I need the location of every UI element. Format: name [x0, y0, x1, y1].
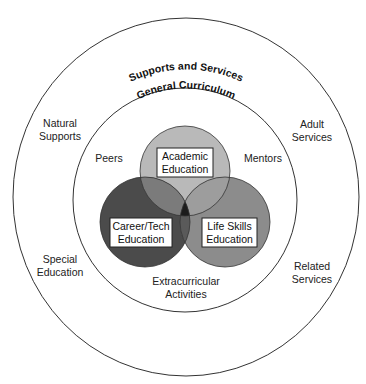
- mentors-label: Mentors: [244, 152, 282, 164]
- natural-supports-line1: Natural: [43, 117, 77, 129]
- related-services-line2: Services: [292, 273, 332, 285]
- extracurricular-label-line2: Activities: [165, 288, 206, 300]
- life-skills-label-line2: Education: [206, 233, 253, 245]
- natural-supports-line2: Supports: [39, 130, 81, 142]
- academic-label-line1: Academic: [162, 150, 208, 162]
- peers-label: Peers: [95, 152, 122, 164]
- extracurricular-label-line1: Extracurricular: [152, 275, 220, 287]
- life-skills-label-line1: Life Skills: [207, 220, 251, 232]
- diagram-canvas: Supports and Services General Curriculum…: [0, 0, 366, 384]
- career-tech-label-line2: Education: [118, 233, 165, 245]
- inner-ring-title: General Curriculum: [134, 78, 237, 101]
- academic-label-line2: Education: [162, 163, 209, 175]
- career-tech-label-line1: Career/Tech: [112, 220, 169, 232]
- nested-circles-diagram: Supports and Services General Curriculum…: [0, 0, 366, 384]
- related-services-line1: Related: [294, 260, 330, 272]
- special-education-line2: Education: [37, 266, 84, 278]
- adult-services-line2: Services: [292, 131, 332, 143]
- adult-services-line1: Adult: [300, 118, 324, 130]
- special-education-line1: Special: [43, 253, 77, 265]
